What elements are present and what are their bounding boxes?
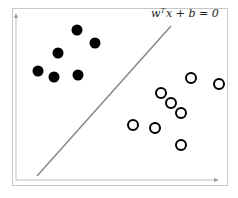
filled-point (72, 25, 83, 36)
hollow-point (186, 73, 196, 83)
hollow-point (166, 98, 176, 108)
hollow-point (176, 108, 186, 118)
positive-class-points (33, 25, 101, 83)
y-axis-arrow-icon (14, 13, 18, 18)
filled-point (53, 48, 64, 59)
negative-class-points (128, 73, 224, 150)
filled-point (90, 38, 101, 49)
axes (14, 13, 219, 182)
hollow-point (128, 120, 138, 130)
filled-point (33, 66, 44, 77)
hollow-point (214, 79, 224, 89)
filled-point (49, 72, 60, 83)
hyperplane-equation: wTx + b = 0 (151, 7, 219, 20)
hollow-point (176, 140, 186, 150)
svm-diagram: wTx + b = 0 (0, 0, 238, 198)
plot-canvas: wTx + b = 0 (0, 0, 238, 198)
hollow-point (156, 88, 166, 98)
filled-point (73, 70, 84, 81)
x-axis-arrow-icon (214, 178, 219, 182)
hollow-point (150, 123, 160, 133)
